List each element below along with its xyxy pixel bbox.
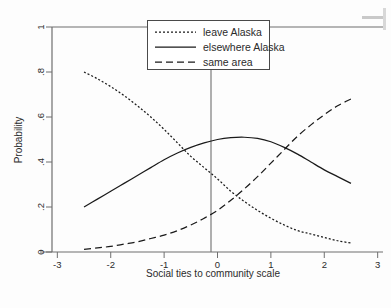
y-tick-label: .2 (35, 203, 46, 211)
x-tick-label: 2 (322, 259, 327, 270)
x-tick-label: 3 (375, 259, 380, 270)
chart-legend: leave Alaskaelsewhere Alaskasame area (148, 21, 285, 70)
probability-line-chart: 0.2.4.6.81 -3-2-10123 Probability Social… (0, 0, 391, 308)
x-axis-title: Social ties to community scale (146, 268, 280, 279)
legend-label-same-area: same area (203, 56, 253, 68)
legend-label-leave-alaska: leave Alaska (203, 26, 262, 38)
y-tick-label: .4 (35, 158, 46, 166)
y-axis-title: Probability (13, 117, 24, 164)
scan-artifact-line (362, 16, 384, 19)
series-line-leave-alaska (84, 72, 351, 243)
y-tick-label: .8 (35, 68, 46, 76)
y-axis-ticks: 0.2.4.6.81 (35, 24, 52, 254)
x-tick-label: -2 (106, 259, 114, 270)
x-tick-label: -3 (53, 259, 61, 270)
series-line-same-area (84, 99, 351, 249)
y-tick-label: .6 (35, 113, 46, 121)
data-series-group (84, 72, 351, 249)
chart-figure: 0.2.4.6.81 -3-2-10123 Probability Social… (0, 0, 391, 308)
y-tick-label: 0 (35, 249, 46, 254)
legend-label-elsewhere-alaska: elsewhere Alaska (203, 41, 285, 53)
series-line-elsewhere-alaska (84, 137, 351, 207)
scan-artifact-edge (383, 8, 386, 30)
y-tick-label: 1 (35, 24, 46, 29)
